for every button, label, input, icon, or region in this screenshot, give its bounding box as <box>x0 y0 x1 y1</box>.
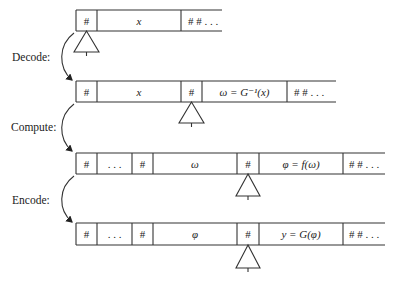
tape-cell-separator: # <box>140 228 146 240</box>
compute-arrow <box>62 104 74 151</box>
tape-cell-blank-tail: # # . . . <box>294 86 325 98</box>
tape-cell-y: y = G(φ) <box>280 228 320 241</box>
tape-cell-blank-tail: # # . . . <box>349 158 380 170</box>
tape-cell-separator: # <box>245 158 251 170</box>
tape-head-icon <box>179 102 204 127</box>
tape-encoded: # . . . # φ # y = G(φ) # # . . . <box>76 223 385 272</box>
tape-cell-x: x <box>136 86 142 98</box>
tape-cell-ellipsis: . . . <box>108 228 122 240</box>
tape-decoded: # x # ω = G⁻¹(x) # # . . . <box>76 81 336 127</box>
tape-cell-omega: ω <box>191 158 199 170</box>
encode-arrow <box>62 176 74 222</box>
tape-cell-separator: # <box>84 15 90 27</box>
tape-cell-separator: # <box>189 86 195 98</box>
tape-cell-ellipsis: . . . <box>108 158 122 170</box>
tape-cell-x: x <box>136 15 142 27</box>
tape-cell-omega: ω = G⁻¹(x) <box>220 86 270 99</box>
tape-cell-phi: φ <box>192 228 198 240</box>
tape-head-icon <box>74 31 99 56</box>
tape-diagram: # x # # . . . Decode: # x # ω = G⁻¹(x) #… <box>0 0 397 284</box>
tape-cell-blank-tail: # # . . . <box>188 15 219 27</box>
tape-cell-separator: # <box>140 158 146 170</box>
tape-cell-separator: # <box>84 228 90 240</box>
tape-head-icon <box>236 174 260 200</box>
tape-cell-phi: φ = f(ω) <box>282 158 319 171</box>
tape-cell-separator: # <box>84 86 90 98</box>
step-label-decode: Decode: <box>12 51 50 63</box>
tape-cell-separator: # <box>245 228 251 240</box>
tape-computed: # . . . # ω # φ = f(ω) # # . . . <box>76 153 385 200</box>
step-label-encode: Encode: <box>12 194 50 206</box>
decode-arrow <box>62 33 74 80</box>
step-label-compute: Compute: <box>11 121 56 134</box>
tape-cell-separator: # <box>84 158 90 170</box>
tape-cell-blank-tail: # # . . . <box>349 228 380 240</box>
tape-head-icon <box>236 245 260 272</box>
tape-input: # x # # . . . <box>74 10 222 56</box>
